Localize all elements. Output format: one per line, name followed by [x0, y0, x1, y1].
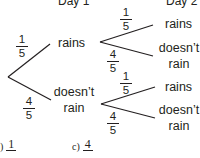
day2-header: Day 2	[166, 0, 197, 7]
prob-rains-doesnt-rain: 4 5	[107, 49, 119, 74]
day1-header: Day 1	[58, 0, 89, 7]
label-day2-doesnt-rain-1: doesn’t rain	[155, 42, 200, 71]
label-day2-rains-1: rains	[165, 18, 192, 31]
label-day2-rains-2: rains	[165, 81, 192, 94]
prob-doesnt-rain-day1: 4 5	[23, 96, 35, 121]
answer-option-c[interactable]: c) 4	[72, 139, 93, 154]
branch-root-rains	[8, 44, 50, 77]
label-day1-rains: rains	[58, 37, 85, 50]
prob-rains-day1: 1 5	[16, 34, 28, 59]
prob-doesnt-rains: 1 5	[120, 71, 132, 96]
answer-option-b[interactable]: ) 1	[0, 139, 16, 154]
prob-rains-rains: 1 5	[120, 7, 132, 32]
label-day1-doesnt-rain: doesn’t rain	[50, 86, 98, 115]
prob-doesnt-doesnt-rain: 4 5	[107, 111, 119, 136]
label-day2-doesnt-rain-2: doesn’t rain	[155, 104, 200, 133]
